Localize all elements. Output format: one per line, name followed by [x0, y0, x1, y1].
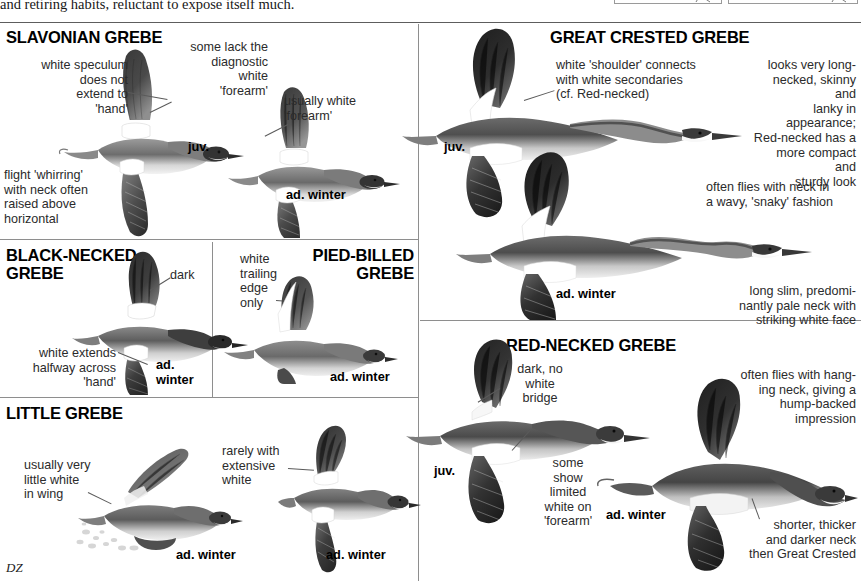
running-body-text: and retiring habits, reluctant to expose…: [0, 0, 430, 12]
note-line: Red-necked has a: [752, 131, 856, 146]
note-line: shorter, thicker: [720, 518, 856, 533]
note-line: often flies with hang-: [724, 368, 856, 383]
note-line: striking white face: [720, 313, 856, 328]
note-line: a wavy, 'snaky' fashion: [706, 195, 861, 210]
note-black-necked-white-extends: white extends halfway across 'hand': [4, 346, 116, 390]
note-red-necked-dark-no-bridge: dark, no white bridge: [500, 362, 580, 406]
note-line: usually white: [284, 94, 414, 109]
note-line: nantly pale neck with: [720, 299, 856, 314]
note-line: diagnostic: [158, 55, 268, 70]
map-tick-icon: [831, 0, 847, 3]
age-label-great-crested-ad-winter: ad. winter: [556, 287, 616, 302]
note-great-crested-pale-neck: long slim, predomi- nantly pale neck wit…: [720, 284, 856, 328]
note-slavonian-speculum: white speculum does not extend to 'hand': [4, 58, 128, 116]
age-label-pied-billed-ad-winter: ad. winter: [330, 370, 390, 385]
note-line: white: [500, 377, 580, 392]
note-line: with white secondaries: [556, 73, 746, 88]
age-label-little-grebe-1: ad. winter: [176, 548, 236, 563]
note-line: hump-backed: [724, 397, 856, 412]
note-line: necked, skinny and: [752, 73, 856, 102]
bird-little-grebe-adult-winter-1: [76, 432, 246, 552]
note-line: impression: [724, 412, 856, 427]
note-line: white: [240, 252, 310, 267]
note-red-necked-shorter-neck: shorter, thicker and darker neck then Gr…: [720, 518, 856, 562]
note-line: 'hand': [4, 102, 128, 117]
age-label-little-grebe-2: ad. winter: [326, 548, 386, 563]
note-line: (cf. Red-necked): [556, 87, 746, 102]
note-line: often flies with neck in: [706, 180, 861, 195]
age-label-red-necked-ad-winter: ad. winter: [606, 508, 666, 523]
note-line: long slim, predomi-: [720, 284, 856, 299]
note-line: dark, no: [500, 362, 580, 377]
note-great-crested-shoulder: white 'shoulder' connects with white sec…: [556, 58, 746, 102]
age-label-red-necked-juv: juv.: [434, 464, 455, 479]
age-label-line: ad.: [156, 358, 212, 373]
note-line: raised above: [4, 197, 139, 212]
distribution-map-box-1: [614, 0, 722, 4]
note-line: extend to: [4, 87, 128, 102]
note-black-necked-dark: dark: [170, 268, 220, 283]
left-rule-slavonian-blacknecked: [0, 239, 418, 240]
note-great-crested-snaky: often flies with neck in a wavy, 'snaky'…: [706, 180, 861, 209]
note-line: white: [158, 69, 268, 84]
note-line: looks very long-: [752, 58, 856, 73]
note-line: white 'shoulder' connects: [556, 58, 746, 73]
map-tick-icon: [695, 0, 711, 3]
note-line: flight 'whirring': [4, 168, 139, 183]
note-line: horizontal: [4, 212, 139, 227]
age-label-great-crested-juv: juv.: [444, 140, 465, 155]
left-rule-above-little: [0, 397, 418, 398]
bird-pied-billed-adult-winter: [222, 274, 408, 384]
note-line: white speculum: [4, 58, 128, 73]
note-line: ing neck, giving a: [724, 383, 856, 398]
note-line: some lack the: [158, 40, 268, 55]
note-line: with neck often: [4, 183, 139, 198]
note-line: and darker neck: [720, 533, 856, 548]
note-red-necked-hanging-neck: often flies with hang- ing neck, giving …: [724, 368, 856, 426]
distribution-map-box-2: [728, 0, 858, 4]
top-border-rule: [0, 22, 861, 23]
age-label-black-necked-ad-winter: ad. winter: [156, 358, 212, 387]
note-line: white extends: [4, 346, 116, 361]
artist-signature: DZ: [6, 560, 23, 576]
note-line: then Great Crested: [720, 547, 856, 562]
note-line: 'forearm': [284, 109, 414, 124]
field-guide-page: and retiring habits, reluctant to expose…: [0, 0, 861, 581]
note-line: halfway across: [4, 361, 116, 376]
age-label-slavonian-ad-winter: ad. winter: [286, 188, 346, 203]
age-label-slavonian-juv: juv.: [188, 140, 209, 155]
note-line: 'hand': [4, 375, 116, 390]
note-slavonian-usually-white-forearm: usually white 'forearm': [284, 94, 414, 123]
note-line: does not: [4, 73, 128, 88]
age-label-line: winter: [156, 373, 212, 388]
note-slavonian-flight: flight 'whirring' with neck often raised…: [4, 168, 139, 226]
heading-little-grebe: LITTLE GREBE: [6, 404, 206, 422]
note-line: bridge: [500, 391, 580, 406]
note-line: lanky in appearance;: [752, 102, 856, 131]
